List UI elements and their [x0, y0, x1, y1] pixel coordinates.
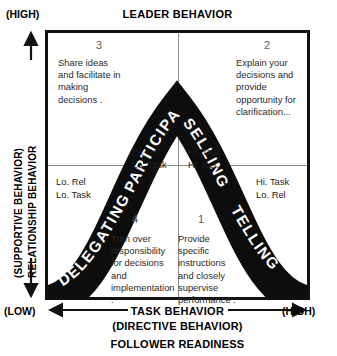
task-rel-line-2: Lo. Task	[56, 188, 91, 201]
quadrant-text-3: Share ideas and facilitate in making dec…	[58, 57, 124, 106]
quadrant-number-4: 4	[132, 213, 138, 225]
quadrant-number-3: 3	[96, 39, 102, 51]
task-rel-line-1: Hi. Task	[188, 145, 221, 158]
quadrant-text-1: Provide specific instructions and closel…	[178, 233, 240, 306]
task-rel-hi-task-hi-rel: Hi. Task Hi. Rel.	[188, 145, 221, 171]
task-rel-line-2: Lo. Task	[132, 158, 167, 171]
quadrant-number-2: 2	[264, 39, 270, 51]
page-title: LEADER BEHAVIOR	[45, 8, 310, 20]
quadrant-text-2: Explain your decisions and provide oppor…	[236, 57, 302, 118]
task-rel-hi-task-lo-rel: Hi. Task Lo. Rel	[256, 175, 289, 201]
task-rel-line-1: Hi. Task	[256, 175, 289, 188]
leadership-matrix: DELEGATING PARTICIPATING SELLING TELLING…	[45, 30, 310, 300]
x-axis-task-label: TASK BEHAVIOR	[45, 305, 310, 317]
task-rel-line-2: Hi. Rel.	[188, 158, 221, 171]
y-axis-supportive-label: (SUPPORTIVE BEHAVIOR)	[13, 148, 24, 278]
task-rel-line-1: Lo. Rel	[56, 175, 91, 188]
task-rel-line-2: Lo. Rel	[256, 188, 289, 201]
quadrant-number-1: 1	[198, 213, 204, 225]
follower-readiness-label: FOLLOWER READINESS	[45, 338, 310, 350]
situational-leadership-diagram: LEADER BEHAVIOR (HIGH) (SUPPORTIVE BEHAV…	[0, 0, 337, 356]
y-axis-labels: (SUPPORTIVE BEHAVIOR) RELATIONSHIP BEHAV…	[0, 60, 44, 285]
task-rel-lo-rel-lo-task: Lo. Rel Lo. Task	[56, 175, 91, 201]
x-axis-low-label: (LOW)	[4, 305, 36, 317]
task-rel-line-1: Hi. Rel.	[132, 145, 167, 158]
y-axis-relationship-label: RELATIONSHIP BEHAVIOR	[27, 145, 38, 278]
task-rel-hi-rel-lo-task: Hi. Rel. Lo. Task	[132, 145, 167, 171]
y-axis-high-label: (HIGH)	[6, 8, 39, 20]
x-axis-directive-label: (DIRECTIVE BEHAVIOR)	[45, 320, 310, 332]
quadrant-text-4: Turn over responsibility for decisions a…	[111, 233, 173, 306]
